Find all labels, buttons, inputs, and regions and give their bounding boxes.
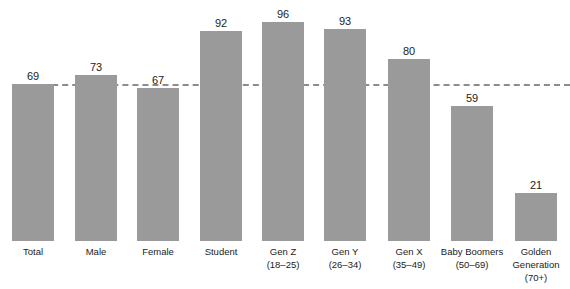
bar-value-label: 59: [442, 92, 502, 104]
bar-value-label: 96: [253, 8, 313, 20]
bar: [12, 84, 54, 241]
bar-value-label: 69: [3, 70, 63, 82]
bar-value-label: 80: [379, 45, 439, 57]
bar: [388, 59, 430, 241]
bar: [200, 31, 242, 241]
bar: [515, 193, 557, 241]
bar-value-label: 21: [506, 179, 566, 191]
bar-chart: 69Total73Male67Female92Student96Gen Z (1…: [0, 0, 570, 289]
bar-value-label: 67: [128, 74, 188, 86]
bar-value-label: 93: [315, 15, 375, 27]
bar: [262, 22, 304, 241]
bar: [75, 75, 117, 241]
bar: [324, 29, 366, 241]
category-label: Golden Generation (70+): [496, 245, 570, 284]
bar: [137, 88, 179, 241]
bar: [451, 106, 493, 241]
bar-value-label: 73: [66, 61, 126, 73]
bar-value-label: 92: [191, 17, 251, 29]
